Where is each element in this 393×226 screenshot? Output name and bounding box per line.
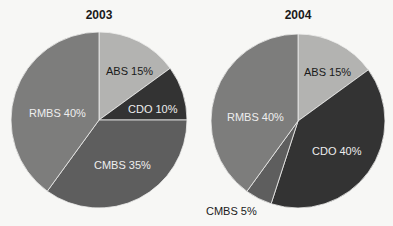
label-rmbs-2004: RMBS 40%	[227, 111, 284, 123]
label-cdo-2003: CDO 10%	[128, 103, 178, 115]
pie-charts: ABS 15% CDO 10% CMBS 35% RMBS 40% ABS 15…	[0, 0, 393, 226]
label-abs-2003: ABS 15%	[106, 65, 153, 77]
label-cmbs-2003: CMBS 35%	[94, 159, 151, 171]
label-rmbs-2003: RMBS 40%	[29, 107, 86, 119]
pie-2003: ABS 15% CDO 10% CMBS 35% RMBS 40%	[11, 32, 187, 208]
label-cmbs-2004: CMBS 5%	[206, 205, 257, 217]
label-abs-2004: ABS 15%	[304, 66, 351, 78]
label-cdo-2004: CDO 40%	[312, 145, 362, 157]
pie-2004: ABS 15% CDO 40% CMBS 5% RMBS 40%	[206, 34, 385, 217]
